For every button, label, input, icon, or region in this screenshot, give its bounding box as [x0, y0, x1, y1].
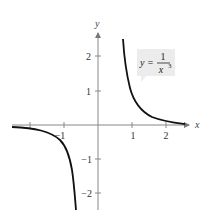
- equation-numerator: 1: [161, 51, 166, 62]
- y-tick-label-neg1: −1: [81, 154, 92, 165]
- equation-lhs: y =: [139, 57, 154, 68]
- y-tick-label-1: 1: [86, 86, 91, 97]
- y-tick-label-neg2: −2: [81, 188, 92, 199]
- x-tick-label-2: 2: [164, 130, 169, 141]
- curve-negative-branch: [12, 127, 76, 210]
- function-graph: −1 1 2 2 1 −1 −2 x y y = 1 x 3: [0, 0, 208, 221]
- y-tick-label-2: 2: [86, 51, 91, 62]
- y-axis-label: y: [94, 18, 100, 29]
- x-axis-label: x: [194, 119, 200, 130]
- x-tick-label-1: 1: [131, 130, 136, 141]
- equation-label: y = 1 x 3: [137, 49, 175, 82]
- equation-exponent: 3: [168, 62, 172, 70]
- equation-denominator: x: [158, 64, 164, 75]
